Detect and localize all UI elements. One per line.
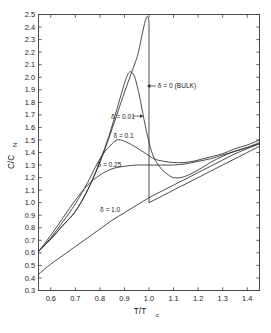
y-axis-title-subscript: N xyxy=(12,143,18,147)
x-tick-label: 0.9 xyxy=(119,294,129,303)
y-tick-label: 1.7 xyxy=(25,110,35,119)
x-tick-label: 1.3 xyxy=(218,294,228,303)
specific-heat-chart: 0.60.70.80.91.01.11.21.31.4 0.30.40.50.6… xyxy=(0,0,271,333)
y-tick-label: 0.8 xyxy=(25,223,35,232)
y-tick-label: 1.0 xyxy=(25,198,35,207)
x-axis-title-text: T/T xyxy=(134,307,146,316)
annotation-delta-0-text: δ = 0 (BULK) xyxy=(158,82,196,90)
y-tick-label: 2.0 xyxy=(25,73,35,82)
y-axis-title-text: C/C xyxy=(7,155,16,169)
y-tick-label: 0.7 xyxy=(25,236,35,245)
y-tick-label: 2.2 xyxy=(25,48,35,57)
x-tick-label: 1.2 xyxy=(193,294,203,303)
annotation-delta-025-text: δ = 0.25 xyxy=(97,161,121,168)
y-tick-label: 1.8 xyxy=(25,98,35,107)
annotation-delta-10-text: δ = 1.0 xyxy=(100,206,121,213)
y-tick-label: 1.4 xyxy=(25,148,35,157)
y-tick-label: 2.5 xyxy=(25,10,35,19)
y-tick-label: 1.1 xyxy=(25,186,35,195)
y-axis-tick-labels: 0.30.40.50.60.70.80.91.01.11.21.31.41.51… xyxy=(25,10,35,295)
y-tick-label: 0.4 xyxy=(25,274,35,283)
y-tick-label: 0.6 xyxy=(25,248,35,257)
y-tick-label: 1.3 xyxy=(25,161,35,170)
x-axis-title-subscript: c xyxy=(156,312,159,318)
chart-background xyxy=(0,0,271,333)
x-tick-label: 0.6 xyxy=(46,294,56,303)
y-tick-label: 1.9 xyxy=(25,85,35,94)
y-tick-label: 1.2 xyxy=(25,173,35,182)
x-tick-label: 0.8 xyxy=(95,294,105,303)
annotation-delta-001-text: δ = 0.01 xyxy=(111,113,135,120)
y-tick-label: 1.5 xyxy=(25,136,35,145)
y-tick-label: 2.1 xyxy=(25,60,35,69)
annotation-delta-01-text: δ = 0.1 xyxy=(113,132,134,139)
x-tick-label: 1.1 xyxy=(168,294,178,303)
y-tick-label: 2.3 xyxy=(25,35,35,44)
x-tick-label: 0.7 xyxy=(70,294,80,303)
x-tick-label: 1.0 xyxy=(144,294,154,303)
chart-figure: 0.60.70.80.91.01.11.21.31.4 0.30.40.50.6… xyxy=(0,0,271,333)
y-tick-label: 1.6 xyxy=(25,123,35,132)
y-tick-label: 2.4 xyxy=(25,23,35,32)
x-axis-tick-labels: 0.60.70.80.91.01.11.21.31.4 xyxy=(46,294,253,303)
annotation-delta-01: δ = 0.1 xyxy=(113,132,134,139)
y-tick-label: 0.5 xyxy=(25,261,35,270)
y-tick-label: 0.9 xyxy=(25,211,35,220)
y-tick-label: 0.3 xyxy=(25,286,35,295)
x-tick-label: 1.4 xyxy=(242,294,252,303)
annotation-delta-10: δ = 1.0 xyxy=(100,206,121,213)
annotation-delta-025: δ = 0.25 xyxy=(97,161,121,168)
